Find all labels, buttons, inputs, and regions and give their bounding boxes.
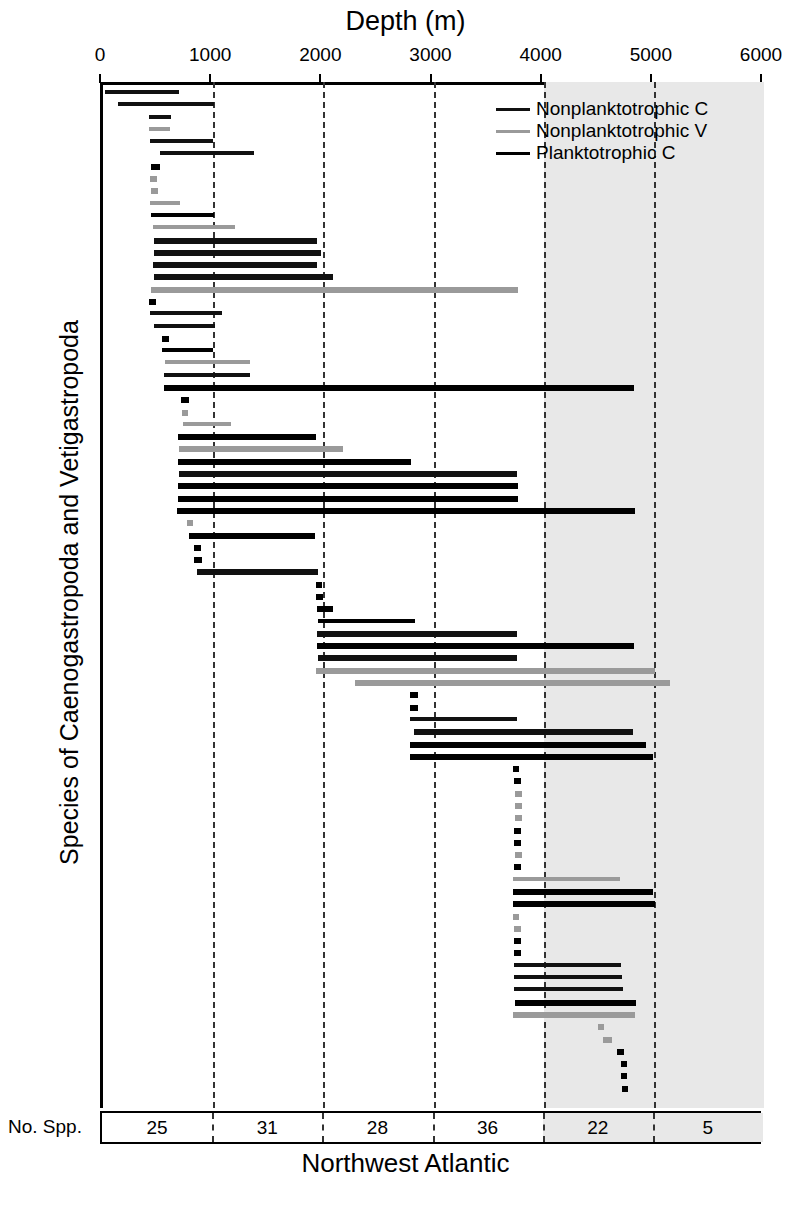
chart-title: Northwest Atlantic	[0, 1148, 811, 1179]
species-count-cell: 31	[212, 1113, 322, 1142]
species-depth-range-bar	[187, 520, 194, 526]
species-depth-range-bar	[164, 373, 250, 377]
legend-label: Nonplanktotrophic C	[536, 98, 708, 120]
species-depth-range-bar	[514, 987, 623, 991]
x-tick-label: 2000	[280, 44, 360, 66]
species-depth-range-bar	[149, 115, 171, 119]
x-tick-label: 6000	[721, 44, 801, 66]
species-depth-range-bar	[181, 397, 189, 403]
species-depth-range-bar	[515, 815, 522, 821]
species-depth-range-bar	[515, 1000, 636, 1006]
species-count-cell: 28	[322, 1113, 432, 1142]
species-depth-range-bar	[105, 90, 179, 94]
depth-range-chart: Depth (m) 0100020003000400050006000 Spec…	[0, 0, 811, 1205]
species-depth-range-bar	[151, 188, 158, 194]
species-depth-range-bar	[189, 533, 315, 539]
species-depth-range-bar	[515, 803, 522, 809]
species-depth-range-bar	[178, 483, 518, 489]
legend-item: Nonplanktotrophic V	[496, 120, 758, 142]
species-count-cell: 25	[102, 1113, 212, 1142]
legend-swatch-icon	[496, 108, 530, 111]
species-count-divider	[543, 1113, 545, 1142]
species-depth-range-bar	[162, 336, 169, 342]
species-depth-range-bar	[178, 434, 316, 440]
species-depth-range-bar	[149, 127, 170, 131]
species-depth-range-bar	[151, 164, 160, 170]
y-axis-title: Species of Caenogastropoda and Vetigastr…	[55, 243, 84, 943]
species-depth-range-bar	[621, 1073, 628, 1079]
species-depth-range-bar	[316, 668, 655, 674]
species-depth-range-bar	[154, 324, 216, 328]
x-axis-title-top: Depth (m)	[0, 6, 811, 37]
species-depth-range-bar	[617, 1049, 624, 1055]
species-depth-range-bar	[177, 508, 635, 514]
species-depth-range-bar	[178, 459, 412, 465]
species-depth-range-bar	[151, 287, 518, 293]
species-count-divider	[212, 1113, 214, 1142]
species-count-divider	[322, 1113, 324, 1142]
gridline	[544, 82, 546, 1108]
species-depth-range-bar	[622, 1086, 629, 1092]
species-count-cell: 5	[653, 1113, 763, 1142]
species-depth-range-bar	[316, 582, 323, 588]
species-depth-range-bar	[513, 914, 520, 920]
x-tick-label: 1000	[170, 44, 250, 66]
x-tick-label: 4000	[501, 44, 581, 66]
species-depth-range-bar	[318, 655, 517, 661]
species-depth-range-bar	[318, 619, 415, 623]
species-depth-range-bar	[162, 348, 213, 352]
species-depth-range-bar	[515, 791, 522, 797]
species-depth-range-bar	[154, 274, 334, 280]
species-depth-range-bar	[514, 840, 521, 846]
species-depth-range-bar	[153, 225, 236, 229]
species-count-strip: 25312836225	[100, 1111, 761, 1144]
legend: Nonplanktotrophic CNonplanktotrophic VPl…	[496, 98, 758, 164]
species-depth-range-bar	[513, 889, 653, 895]
species-depth-range-bar	[317, 631, 518, 637]
gridline	[323, 82, 325, 1108]
species-depth-range-bar	[514, 926, 521, 932]
species-count-divider	[433, 1113, 435, 1142]
species-depth-range-bar	[410, 705, 418, 711]
legend-swatch-icon	[496, 152, 530, 155]
species-depth-range-bar	[410, 692, 418, 698]
x-tick-label: 0	[60, 44, 140, 66]
species-depth-range-bar	[514, 963, 621, 967]
species-depth-range-bar	[513, 901, 655, 907]
species-depth-range-bar	[182, 410, 188, 416]
species-depth-range-bar	[150, 201, 180, 205]
gridline	[213, 82, 215, 1108]
species-depth-range-bar	[410, 717, 517, 721]
species-depth-range-bar	[513, 1012, 635, 1018]
species-depth-range-bar	[197, 569, 318, 575]
species-depth-range-bar	[317, 643, 634, 649]
legend-swatch-icon	[496, 130, 530, 133]
gridline	[654, 82, 656, 1108]
species-depth-range-bar	[355, 680, 670, 686]
species-depth-range-bar	[194, 545, 201, 551]
species-depth-range-bar	[154, 250, 321, 256]
species-depth-range-bar	[316, 594, 324, 600]
species-depth-range-bar	[514, 864, 521, 870]
plot-area	[100, 82, 761, 1108]
species-depth-range-bar	[153, 262, 317, 268]
legend-label: Planktotrophic C	[536, 142, 675, 164]
species-depth-range-bar	[183, 422, 230, 426]
legend-label: Nonplanktotrophic V	[536, 120, 707, 142]
species-depth-range-bar	[118, 102, 214, 106]
species-depth-range-bar	[149, 299, 156, 305]
species-depth-range-bar	[513, 766, 520, 772]
species-count-cell: 36	[433, 1113, 543, 1142]
species-depth-range-bar	[410, 742, 646, 748]
species-depth-range-bar	[154, 238, 317, 244]
species-depth-range-bar	[194, 557, 202, 563]
species-depth-range-bar	[150, 139, 213, 143]
species-depth-range-bar	[514, 778, 521, 784]
species-depth-range-bar	[514, 950, 521, 956]
species-count-cell: 22	[543, 1113, 653, 1142]
species-depth-range-bar	[514, 828, 521, 834]
species-depth-range-bar	[179, 471, 517, 477]
species-depth-range-bar	[514, 975, 622, 979]
species-depth-range-bar	[151, 213, 214, 217]
species-depth-range-bar	[513, 877, 620, 881]
